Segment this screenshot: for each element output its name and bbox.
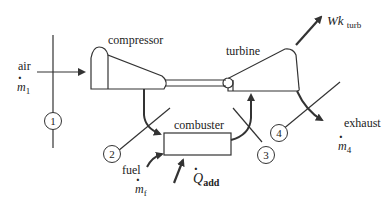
exhaust-label: exhaust bbox=[344, 117, 381, 129]
state-1-marker: 1 bbox=[44, 112, 62, 130]
state-4-boundary bbox=[282, 82, 340, 130]
exhaust-flow bbox=[297, 91, 322, 120]
state-4-marker: 4 bbox=[270, 124, 288, 142]
compressor-shape bbox=[91, 47, 166, 89]
fuel-mass-flow-label: mf bbox=[135, 183, 147, 195]
state-3-marker: 3 bbox=[257, 146, 275, 164]
compressor-label: compressor bbox=[108, 34, 163, 46]
combuster-label: combuster bbox=[174, 119, 224, 131]
state-2-marker: 2 bbox=[103, 145, 121, 163]
heat-input-arrow bbox=[174, 160, 183, 183]
exhaust-mass-flow-label: m4 bbox=[338, 140, 351, 152]
fuel-inlet-arrow bbox=[147, 154, 162, 167]
turbine-work-label: Wk turb bbox=[327, 14, 361, 27]
work-output-arrow bbox=[296, 17, 321, 45]
turbine-label: turbine bbox=[226, 45, 260, 57]
gas-turbine-diagram: compressor turbine combuster air m1 fuel… bbox=[0, 0, 392, 207]
combuster-box bbox=[164, 133, 231, 155]
air-mass-flow-label: m1 bbox=[17, 81, 30, 93]
heat-added-label: Qadd bbox=[193, 172, 219, 186]
